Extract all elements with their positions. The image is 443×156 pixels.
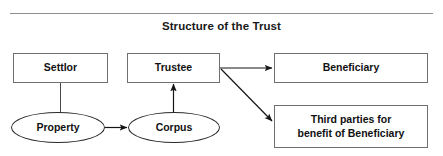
node-corpus-label: Corpus xyxy=(156,121,193,134)
node-third-parties: Third parties for benefit of Beneficiary xyxy=(274,105,428,148)
node-settlor: Settlor xyxy=(13,53,108,83)
node-property-label: Property xyxy=(36,121,79,134)
node-beneficiary-label: Beneficiary xyxy=(323,61,380,74)
node-corpus: Corpus xyxy=(128,112,220,143)
node-beneficiary: Beneficiary xyxy=(274,53,428,83)
node-settlor-label: Settlor xyxy=(44,61,77,74)
header-divider xyxy=(10,13,433,14)
node-property: Property xyxy=(11,112,105,143)
node-trustee: Trustee xyxy=(127,53,220,83)
connector-trustee-to-third-parties xyxy=(221,69,272,121)
node-third-parties-label: Third parties for benefit of Beneficiary xyxy=(298,113,405,139)
trust-structure-diagram: Structure of the Trust Settlor Trustee B… xyxy=(0,0,443,156)
node-trustee-label: Trustee xyxy=(155,61,192,74)
diagram-title: Structure of the Trust xyxy=(0,20,443,32)
